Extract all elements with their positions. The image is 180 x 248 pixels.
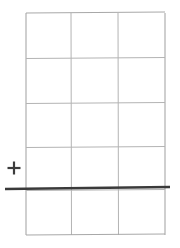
grid-horizontal-line-2 [26,103,165,104]
grid-table [26,12,165,235]
grid-vertical-line-1 [71,13,72,235]
grid-horizontal-line-1 [26,58,165,59]
plus-mark [8,162,21,175]
grid-horizontal-line-bottom [26,234,165,235]
grid-horizontal-line-top [26,12,165,13]
grid-figure [0,0,180,248]
grid-horizontal-lines [26,12,165,235]
figure-canvas [0,0,180,248]
horizontal-rule [5,187,170,189]
grid-vertical-lines [26,13,165,235]
grid-vertical-line-2 [118,13,119,235]
grid-horizontal-line-3 [26,147,165,148]
